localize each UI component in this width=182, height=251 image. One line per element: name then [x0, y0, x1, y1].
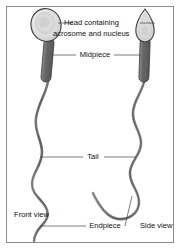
- label-front-view: Front view: [14, 210, 50, 219]
- label-midpiece: Midpiece: [80, 50, 110, 59]
- nucleus-side: [141, 26, 148, 36]
- label-side-view: Side view: [140, 221, 173, 230]
- label-tail: Tail: [87, 152, 99, 161]
- midpiece-front: [41, 38, 55, 83]
- nucleus-front: [39, 16, 49, 27]
- midpiece-side: [139, 38, 151, 82]
- sperm-front-view: [28, 6, 64, 241]
- sperm-side-view: [93, 9, 154, 219]
- sperm-diagram-figure: Head containing acrosome and nucleus Mid…: [0, 0, 182, 251]
- label-head-line2: acrosome and nucleus: [53, 29, 130, 38]
- tail-path-side: [93, 82, 144, 219]
- diagram-canvas: Head containing acrosome and nucleus Mid…: [0, 0, 182, 251]
- label-endpiece: Endpiece: [89, 221, 121, 230]
- label-head-line1: Head containing: [64, 18, 119, 27]
- leader-endpiece-right: [125, 196, 132, 226]
